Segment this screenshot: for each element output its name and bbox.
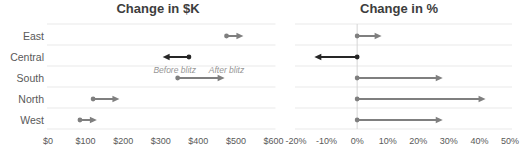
chart-canvas: $0$100$200$300$400$500$600EastCentralSou… <box>0 0 526 156</box>
x-tick-label: 40% <box>470 136 488 146</box>
arrow-head <box>436 75 443 81</box>
x-tick-label: $400 <box>188 136 208 146</box>
x-tick-label: -20% <box>285 136 306 146</box>
arrow-start-dot <box>91 97 96 102</box>
x-tick-label: $500 <box>226 136 246 146</box>
arrow-start-dot <box>187 55 192 60</box>
category-label-central: Central <box>10 51 44 63</box>
x-tick-label: $300 <box>151 136 171 146</box>
arrow-start-dot <box>78 118 83 123</box>
arrow-start-dot <box>355 55 360 60</box>
arrow-head <box>163 54 170 60</box>
annotation-before-blitz: Before blitz <box>153 65 196 75</box>
x-tick-label: $200 <box>113 136 133 146</box>
arrow-head <box>314 54 321 60</box>
x-tick-label: 10% <box>379 136 397 146</box>
arrow-start-dot <box>355 34 360 39</box>
arrow-start-dot <box>355 76 360 81</box>
arrow-head <box>112 96 119 102</box>
x-tick-label: -10% <box>316 136 337 146</box>
arrow-start-dot <box>355 118 360 123</box>
x-tick-label: 20% <box>409 136 427 146</box>
arrow-start-dot <box>175 76 180 81</box>
x-tick-label: 50% <box>501 136 519 146</box>
x-tick-label: $600 <box>263 136 283 146</box>
annotation-after-blitz: After blitz <box>208 65 245 75</box>
x-tick-label: 0% <box>351 136 364 146</box>
arrow-head <box>218 75 225 81</box>
arrow-head <box>375 33 382 39</box>
category-label-south: South <box>17 72 45 84</box>
category-label-east: East <box>23 30 44 42</box>
category-label-west: West <box>20 114 44 126</box>
arrow-start-dot <box>355 97 360 102</box>
arrow-head <box>479 96 486 102</box>
arrow-head <box>236 33 243 39</box>
arrow-start-dot <box>224 34 229 39</box>
x-tick-label: 30% <box>440 136 458 146</box>
category-label-north: North <box>18 93 44 105</box>
arrow-head <box>90 117 97 123</box>
x-tick-label: $0 <box>43 136 53 146</box>
dumbbell-arrow-charts: Change in $K Change in % $0$100$200$300$… <box>0 0 526 156</box>
x-tick-label: $100 <box>76 136 96 146</box>
arrow-head <box>436 117 443 123</box>
